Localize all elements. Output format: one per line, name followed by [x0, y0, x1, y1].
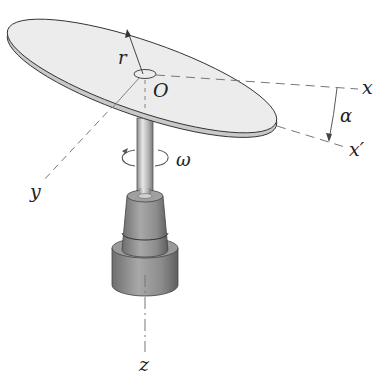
shaft: [137, 118, 153, 198]
origin-label: O: [153, 79, 169, 101]
omega-label: ω: [176, 149, 191, 170]
x-prime-label: x′: [349, 138, 365, 160]
x-axis-label: x: [362, 76, 373, 98]
radius-label: r: [118, 47, 128, 68]
x-prime-axis: [277, 126, 348, 148]
z-axis-label: z: [138, 353, 150, 375]
tilted-disk-diagram: r O x x′ α ω y z: [0, 0, 381, 386]
alpha-arc: [326, 88, 337, 142]
alpha-label: α: [340, 105, 352, 126]
y-axis-label: y: [29, 180, 41, 202]
